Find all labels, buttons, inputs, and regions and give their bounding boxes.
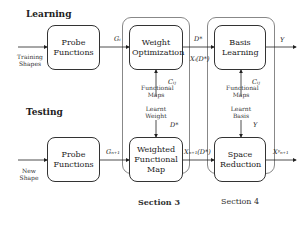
section-4-label: Section 4 (221, 197, 259, 206)
gi-label: Gᵢ (114, 35, 121, 43)
dstar-top-label: D* (194, 35, 202, 43)
probe-functions-testing-box: Probe Functions (47, 137, 100, 182)
section-3-label: Section 3 (138, 197, 180, 207)
probe-functions-testing-label: Probe Functions (54, 150, 94, 170)
learnt-weight-label: Learnt Weight (142, 105, 170, 119)
functional-maps-left-label: Functional Maps (141, 84, 171, 98)
probe-functions-learning-box: Probe Functions (47, 25, 100, 70)
basis-learning-box: Basis Learning (214, 25, 266, 70)
xn1-y-label: Xʸₙ₊₁ (273, 148, 289, 156)
weighted-functional-map-label: Weighted Functional Map (134, 145, 178, 175)
space-reduction-box: Space Reduction (214, 137, 266, 182)
weighted-functional-map-box: Weighted Functional Map (129, 137, 183, 182)
learnt-basis-label: Learnt Basis (228, 105, 254, 119)
functional-maps-right-label: Functional Maps (226, 84, 256, 98)
weight-optimization-label: Weight Optimization (132, 38, 180, 58)
training-shapes-label: Training Shapes (16, 53, 44, 67)
gn1-label: Gₙ₊₁ (106, 148, 120, 156)
basis-learning-label: Basis Learning (222, 38, 258, 58)
new-shape-label: New Shape (18, 167, 40, 181)
y-mid-label: Y (253, 121, 257, 129)
y-top-label: Y (280, 36, 284, 44)
weight-optimization-box: Weight Optimization (129, 25, 183, 70)
xi-dstar-label: Xᵢ(D*) (190, 55, 209, 63)
dstar-mid-label: D* (170, 121, 178, 129)
xn1-dstar-label: Xₙ₊₁(D*) (184, 148, 211, 156)
space-reduction-label: Space Reduction (220, 150, 260, 170)
probe-functions-learning-label: Probe Functions (54, 38, 94, 58)
